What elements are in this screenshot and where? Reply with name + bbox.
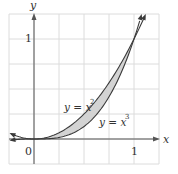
svg-text:3: 3 [125, 113, 129, 121]
label-x-cubed: y = x 3 [98, 113, 129, 128]
svg-text:2: 2 [90, 98, 94, 106]
chart: x y 0 1 1 y = x 2 y = x 3 [0, 0, 178, 174]
x-tick-label-1: 1 [131, 145, 138, 158]
x-tick-label-0: 0 [25, 145, 32, 158]
label-x-squared: y = x 2 [63, 98, 94, 113]
svg-text:y = x: y = x [63, 101, 91, 113]
y-tick-label-1: 1 [25, 32, 32, 45]
svg-text:y = x: y = x [98, 116, 126, 128]
y-axis-label: y [29, 0, 37, 12]
x-axis-label: x [163, 133, 170, 146]
